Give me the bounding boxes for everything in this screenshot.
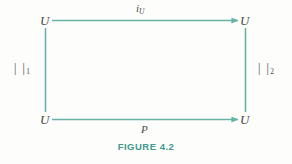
edge-label-right-base: | | bbox=[258, 61, 270, 75]
edge-label-right-subscript: 2 bbox=[270, 67, 274, 76]
vertex-top-right: U bbox=[240, 14, 249, 27]
edge-label-bottom-base: P bbox=[141, 123, 148, 135]
edge-label-left-base: | | bbox=[14, 61, 26, 75]
figure-caption: FIGURE 4.2 bbox=[0, 141, 292, 152]
edge-label-left-subscript: 1 bbox=[26, 67, 30, 76]
vertex-top-left: U bbox=[40, 14, 49, 27]
edge-label-top: iU bbox=[136, 3, 144, 16]
vertex-bottom-left: U bbox=[40, 113, 49, 126]
edge-label-top-subscript: U bbox=[139, 7, 144, 16]
edge-label-left-norm: | |1 bbox=[14, 62, 30, 76]
figure-container: U U U U iU P | |1 | |2 FIGURE 4.2 bbox=[0, 0, 292, 164]
edge-label-bottom: P bbox=[141, 124, 148, 137]
vertex-bottom-right: U bbox=[240, 113, 249, 126]
edge-label-right-norm: | |2 bbox=[258, 62, 274, 76]
